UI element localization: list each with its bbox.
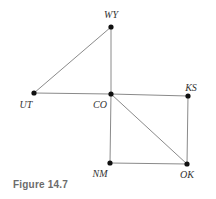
node-label-wy: WY [104,9,119,20]
node-label-ok: OK [180,169,195,180]
node-label-nm: NM [92,168,109,179]
edge-co-ks [111,94,188,96]
figure-caption: Figure 14.7 [13,179,68,190]
edge-co-ok [111,94,187,164]
edge-ks-ok [187,96,188,164]
node-wy [108,24,113,29]
edge-nm-ok [110,163,187,164]
node-ok [184,161,189,166]
node-label-ut: UT [20,99,34,110]
node-label-ks: KS [184,82,197,93]
node-label-co: CO [93,99,107,110]
node-nm [107,160,112,165]
node-ut [31,90,36,95]
edge-co-nm [110,94,111,163]
edge-wy-ut [34,27,111,93]
node-ks [185,93,190,98]
graph-diagram: WYUTCOKSNMOK [0,0,216,199]
node-co [108,91,113,96]
graph-labels: WYUTCOKSNMOK [20,9,197,180]
edge-ut-co [34,93,111,94]
